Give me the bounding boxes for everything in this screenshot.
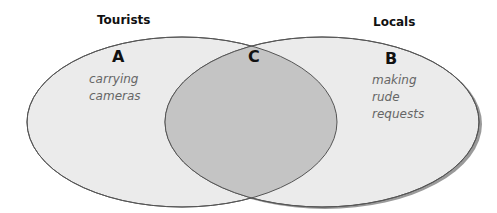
region-b-description-line: requests <box>372 106 424 123</box>
region-b-description: making rude requests <box>372 72 424 123</box>
region-a-label: A <box>112 47 124 66</box>
region-b-label: B <box>385 49 397 68</box>
tourists-set-title: Tourists <box>97 13 150 27</box>
region-b-description-line: rude <box>372 89 424 106</box>
region-c-label: C <box>248 47 260 66</box>
region-b-description-line: making <box>372 72 424 89</box>
region-a-description: carrying cameras <box>89 71 141 105</box>
region-a-description-line: cameras <box>89 88 141 105</box>
locals-set-title: Locals <box>373 15 415 29</box>
region-a-description-line: carrying <box>89 71 141 88</box>
venn-diagram: Tourists Locals A C B carrying cameras m… <box>0 0 497 213</box>
